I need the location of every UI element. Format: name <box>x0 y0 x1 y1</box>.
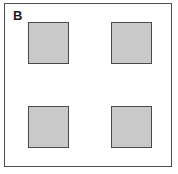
panel-label: B <box>13 9 22 22</box>
square-bottom-left <box>28 106 69 148</box>
figure-panel: B <box>4 3 172 167</box>
square-bottom-right <box>111 106 152 148</box>
square-top-right <box>111 22 152 64</box>
square-top-left <box>28 22 69 64</box>
